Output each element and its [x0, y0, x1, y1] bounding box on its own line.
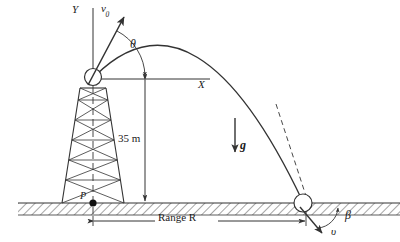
initial-velocity-subscript: 0: [105, 10, 109, 19]
tower-right-leg: [106, 88, 124, 203]
tower-brace: [78, 88, 106, 100]
tower-brace: [72, 140, 117, 160]
y-axis-label: Y: [72, 4, 78, 15]
base-point-label: P: [80, 191, 86, 201]
landing-circle-marker: [294, 194, 312, 212]
projectile-motion-figure: Y v0 θ X 35 m g P Range R β υ: [0, 0, 400, 242]
tower-brace: [75, 120, 114, 140]
initial-velocity-label: v0: [101, 3, 110, 17]
tower-height-label: 35 m: [118, 133, 140, 144]
tower-brace: [69, 140, 114, 160]
impact-velocity-label: υ: [331, 226, 336, 237]
dashed-tangent-line: [276, 104, 306, 196]
ground: [18, 203, 400, 215]
tower-brace: [78, 100, 111, 120]
tower-brace: [69, 160, 121, 180]
figure-canvas: [0, 0, 400, 242]
x-axis-label: X: [198, 79, 205, 90]
tower-brace: [66, 180, 124, 203]
trajectory-curve: [95, 45, 303, 202]
tower-brace: [72, 120, 111, 140]
lattice-tower-icon: [62, 86, 124, 216]
gravity-label: g: [240, 139, 246, 151]
ground-hatch: [18, 203, 400, 215]
tower-brace: [66, 160, 118, 180]
impact-angle-label: β: [345, 209, 351, 221]
base-point-marker: [89, 199, 96, 206]
tower-brace: [80, 88, 108, 100]
range-label: Range R: [158, 212, 196, 223]
tower-brace: [62, 180, 120, 203]
launch-angle-label: θ: [130, 38, 136, 50]
tower-left-leg: [62, 88, 80, 203]
tower-brace: [75, 100, 108, 120]
